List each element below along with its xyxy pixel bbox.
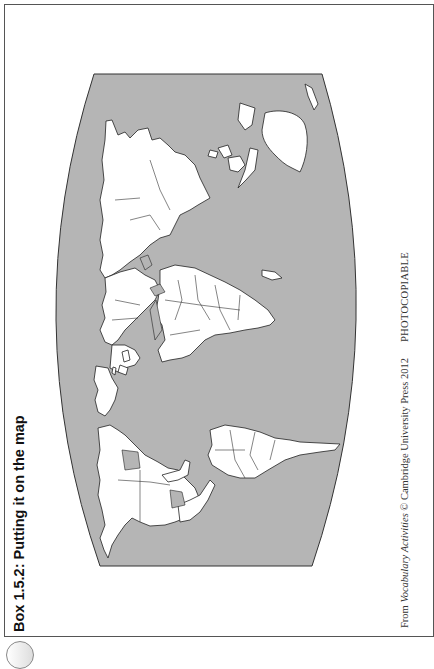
copyright-footer: From Vocabulary Activities © Cambridge U… [397,252,413,628]
landmass-new-zealand [112,367,116,375]
credit-prefix: From [399,603,410,628]
box-title: Box 1.5.2: Putting it on the map [8,372,30,632]
page-corner-circle [6,641,34,669]
credit-copyright: © Cambridge University Press 2012 [399,358,410,513]
book-title: Vocabulary Activities [399,513,410,602]
photocopiable-label: PHOTOCOPIABLE [399,252,410,342]
hudson-bay [122,450,140,470]
